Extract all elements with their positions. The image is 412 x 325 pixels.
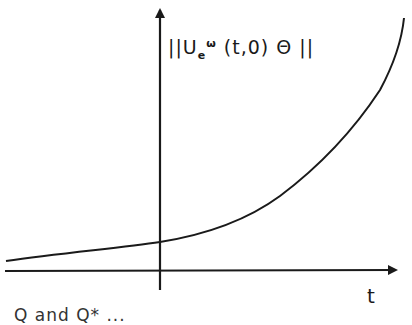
x-axis-label: t	[367, 284, 375, 308]
x-axis	[5, 270, 396, 271]
caption-fragment: Q and Q* ...	[14, 305, 126, 325]
y-axis-label: ||Ueω (t,0) Θ ||	[168, 36, 314, 62]
